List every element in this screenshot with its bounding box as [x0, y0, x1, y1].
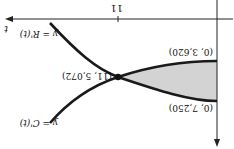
curve-c-label: y = C'(t) [19, 118, 59, 128]
t-axis-arrow-icon [5, 16, 13, 22]
chart-svg: t 11 y = R'(t) y = C'(t) (0, 3,620) (0, … [0, 0, 234, 149]
point-r0-label: (0, 3,620) [169, 47, 213, 57]
curve-r-label: y = R'(t) [19, 29, 59, 39]
t-axis-label: t [3, 24, 8, 35]
rotated-chart: t 11 y = R'(t) y = C'(t) (0, 3,620) (0, … [0, 0, 234, 149]
point-intersection-label: (11, 5,072) [62, 71, 112, 81]
intersection-point [115, 74, 121, 80]
tick-11-label: 11 [110, 3, 123, 14]
y-axis-arrow-icon [214, 139, 220, 147]
point-c0-label: (0, 7,250) [169, 103, 213, 113]
